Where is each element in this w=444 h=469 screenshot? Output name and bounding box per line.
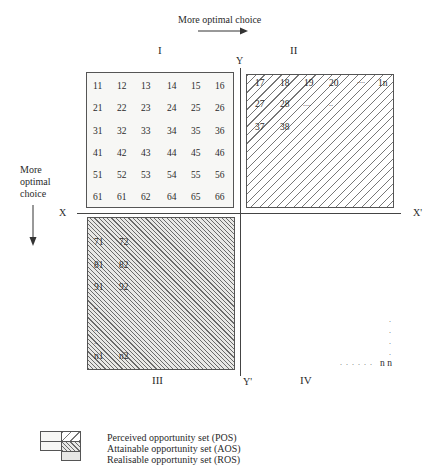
- cell: 44: [167, 148, 177, 158]
- cell: 1n: [378, 78, 388, 88]
- cell: 45: [191, 148, 201, 158]
- cell: 13: [141, 81, 151, 91]
- quadrant-III-box-ros: 71 72 81 82 91 92 .. .. .. n1 n2: [87, 217, 235, 370]
- cell: 32: [117, 126, 127, 136]
- axis-y-prime-label: Y': [243, 376, 252, 387]
- cell: 28: [280, 99, 290, 109]
- quadrant-IV-dots-vertical: . . . .: [389, 314, 391, 358]
- cell: 52: [117, 170, 127, 180]
- y-axis: [240, 68, 241, 376]
- axis-y-label: Y: [236, 55, 243, 66]
- cell: 38: [280, 122, 290, 132]
- cell: n1: [94, 351, 104, 361]
- quadrant-II-label: II: [290, 44, 297, 56]
- top-arrow-label: More optimal choice: [178, 14, 261, 25]
- cell: 23: [141, 103, 151, 113]
- right-arrow-icon: [198, 26, 250, 36]
- cell: 41: [93, 148, 103, 158]
- cell: 62: [141, 192, 151, 202]
- cell: 33: [141, 126, 151, 136]
- cell: ..: [94, 324, 98, 333]
- cell: 20: [329, 78, 339, 88]
- quadrant-I-box-pos: 11 12 13 14 15 16 21 22 23 24 25 26 31 3…: [86, 72, 234, 208]
- cell: 66: [215, 192, 225, 202]
- quadrant-II-box-aos: 17 18 19 20 .... 1n 27 28 .... .. 37 38: [246, 74, 394, 208]
- cell: 11: [93, 81, 102, 91]
- cell: 72: [119, 237, 129, 247]
- quadrant-III-label: III: [152, 374, 163, 386]
- cell: 53: [141, 170, 151, 180]
- cell: 22: [117, 103, 127, 113]
- cell: 82: [119, 260, 129, 270]
- cell: 36: [215, 126, 225, 136]
- cell: 65: [191, 192, 201, 202]
- cell: 81: [94, 260, 104, 270]
- cell: 64: [167, 192, 177, 202]
- cell: 51: [93, 170, 103, 180]
- axis-x-label: X: [59, 207, 66, 218]
- x-axis: [77, 213, 401, 214]
- down-arrow-icon: [28, 205, 38, 247]
- cell: 54: [167, 170, 177, 180]
- cell: 55: [191, 170, 201, 180]
- axis-x-prime-label: X': [413, 207, 422, 218]
- cell: 43: [141, 148, 151, 158]
- cell: 34: [167, 126, 177, 136]
- cell: ..: [94, 302, 98, 311]
- cell: ..: [329, 99, 333, 108]
- cell: 61: [117, 192, 127, 202]
- cell: 71: [94, 237, 104, 247]
- cell: 35: [191, 126, 201, 136]
- cell: 17: [255, 78, 265, 88]
- cell: n2: [119, 351, 129, 361]
- legend-label-aos: Attainable opportunity set (AOS): [107, 443, 241, 454]
- cell: 37: [255, 122, 265, 132]
- cell: 25: [191, 103, 201, 113]
- legend-swatch-ros-base: [61, 451, 81, 461]
- cell: 15: [191, 81, 201, 91]
- cell: 21: [93, 103, 103, 113]
- cell: 31: [93, 126, 103, 136]
- legend-label-ros: Realisable opportunity set (ROS): [107, 454, 240, 465]
- cell: 27: [255, 99, 265, 109]
- cell: ....: [303, 99, 311, 108]
- cell: 42: [117, 148, 127, 158]
- left-arrow-label: More optimal choice: [20, 164, 51, 200]
- legend-label-pos: Perceived opportunity set (POS): [107, 432, 237, 443]
- cell: 14: [167, 81, 177, 91]
- cell: 18: [280, 78, 290, 88]
- cell: 56: [215, 170, 225, 180]
- quadrant-IV-corner-nn: n n: [380, 358, 392, 368]
- legend-swatch-pos-divider: [40, 441, 61, 442]
- cell: ....: [357, 76, 365, 85]
- cell: 46: [215, 148, 225, 158]
- cell: 16: [215, 81, 225, 91]
- cell: 92: [119, 282, 129, 292]
- cell: 26: [215, 103, 225, 113]
- cell: 61: [93, 192, 103, 202]
- quadrant-I-label: I: [158, 44, 162, 56]
- quadrant-IV-label: IV: [300, 374, 312, 386]
- quadrant-IV-dots-horizontal: . . . . . .: [340, 358, 373, 367]
- cell: 12: [117, 81, 127, 91]
- cell: 24: [167, 103, 177, 113]
- cell: ..: [94, 337, 98, 346]
- cell: 91: [94, 282, 104, 292]
- cell: 19: [304, 78, 314, 88]
